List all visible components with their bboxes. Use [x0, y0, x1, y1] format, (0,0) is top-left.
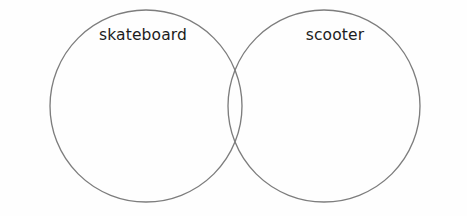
- venn-label-right: scooter: [306, 28, 365, 44]
- venn-label-left: skateboard: [99, 28, 187, 44]
- venn-diagram-worksheet: skateboard scooter: [0, 0, 467, 216]
- venn-diagram-svg: [0, 0, 467, 216]
